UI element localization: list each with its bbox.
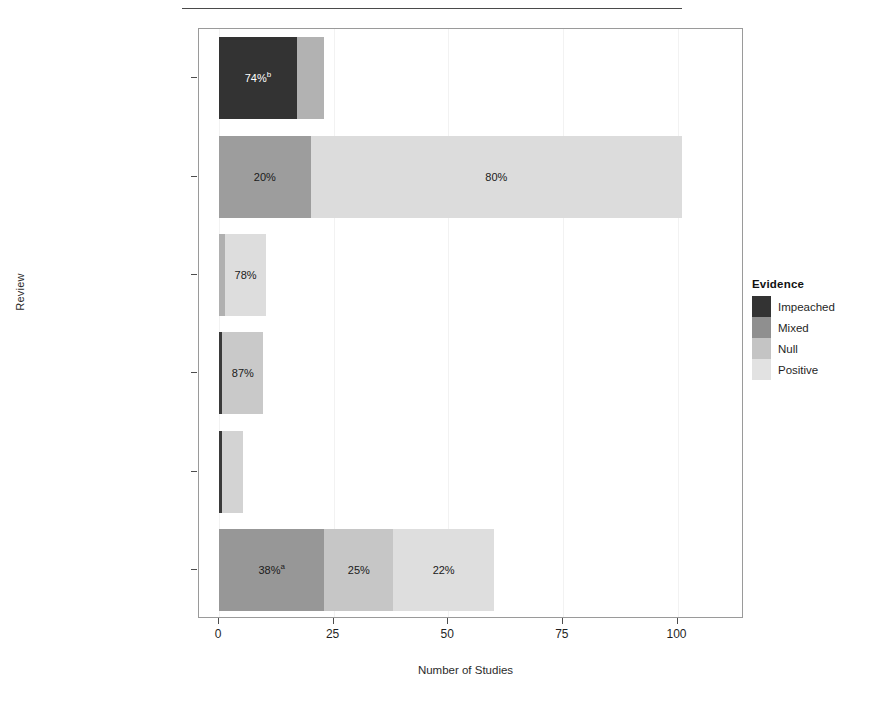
bar-segment-label-superscript: a <box>281 562 285 571</box>
y-tick-mark <box>191 176 197 177</box>
bar-group[interactable]: 78% <box>219 234 266 316</box>
x-tick-label: 50 <box>441 627 454 641</box>
bar-group[interactable]: 20%80% <box>219 136 682 218</box>
legend-label: Mixed <box>778 322 809 334</box>
legend-item[interactable]: Mixed <box>752 317 835 338</box>
bar-segment-label: 25% <box>348 564 370 575</box>
legend-label: Positive <box>778 364 818 376</box>
bar-segment-label: 80% <box>485 171 507 182</box>
x-axis: 0255075100 <box>198 618 743 658</box>
bar-segment[interactable] <box>222 431 243 513</box>
bar-segment[interactable]: 74%b <box>219 37 297 119</box>
legend: Evidence ImpeachedMixedNullPositive <box>752 278 835 380</box>
legend-label: Null <box>778 343 798 355</box>
legend-swatch <box>752 317 771 338</box>
gridline <box>678 29 679 617</box>
bar-segment-label: 22% <box>433 564 455 575</box>
x-axis-title: Number of Studies <box>198 664 733 676</box>
plot-panel: 74%b20%80%78%87%38%a25%22% <box>198 28 743 618</box>
legend-item[interactable]: Impeached <box>752 296 835 317</box>
x-tick-mark <box>333 618 334 624</box>
bar-segment[interactable]: 80% <box>311 136 682 218</box>
legend-title: Evidence <box>752 278 835 290</box>
x-tick-mark <box>218 618 219 624</box>
bar-segment-label: 78% <box>235 269 257 280</box>
page-horizontal-rule <box>182 8 682 9</box>
y-tick-mark <box>191 471 197 472</box>
bar-segment[interactable]: 20% <box>219 136 311 218</box>
bar-segment-label: 20% <box>254 171 276 182</box>
bar-segment-label-superscript: b <box>267 70 271 79</box>
bar-segment[interactable]: 38%a <box>219 529 324 611</box>
x-tick-label: 100 <box>666 627 686 641</box>
x-tick-label: 25 <box>326 627 339 641</box>
bar-group[interactable]: 38%a25%22% <box>219 529 494 611</box>
bar-group[interactable] <box>219 431 243 513</box>
legend-item[interactable]: Null <box>752 338 835 359</box>
x-tick-mark <box>677 618 678 624</box>
bar-segment[interactable] <box>297 37 325 119</box>
bar-segment[interactable]: 78% <box>225 234 266 316</box>
y-tick-mark <box>191 77 197 78</box>
y-tick-mark <box>191 274 197 275</box>
legend-items: ImpeachedMixedNullPositive <box>752 296 835 380</box>
bar-segment-label: 38%a <box>258 564 284 575</box>
legend-label: Impeached <box>778 301 835 313</box>
y-tick-mark <box>191 569 197 570</box>
plot-area: 74%b20%80%78%87%38%a25%22% <box>199 29 742 617</box>
x-tick-mark <box>562 618 563 624</box>
bar-segment-label: 74%b <box>245 73 271 84</box>
legend-swatch <box>752 338 771 359</box>
x-tick-mark <box>447 618 448 624</box>
legend-swatch <box>752 359 771 380</box>
x-tick-label: 0 <box>215 627 222 641</box>
legend-swatch <box>752 296 771 317</box>
x-tick-label: 75 <box>555 627 568 641</box>
y-axis-tick-labels: Rachman 1971Meltzoff & Kornreich 1970Lub… <box>0 0 190 707</box>
bar-segment[interactable]: 87% <box>222 332 263 414</box>
bar-segment[interactable]: 25% <box>324 529 393 611</box>
bar-segment[interactable]: 22% <box>393 529 494 611</box>
bar-group[interactable]: 74%b <box>219 37 324 119</box>
y-tick-mark <box>191 372 197 373</box>
bar-segment-label: 87% <box>232 368 254 379</box>
legend-item[interactable]: Positive <box>752 359 835 380</box>
gridline <box>563 29 564 617</box>
bar-group[interactable]: 87% <box>219 332 263 414</box>
